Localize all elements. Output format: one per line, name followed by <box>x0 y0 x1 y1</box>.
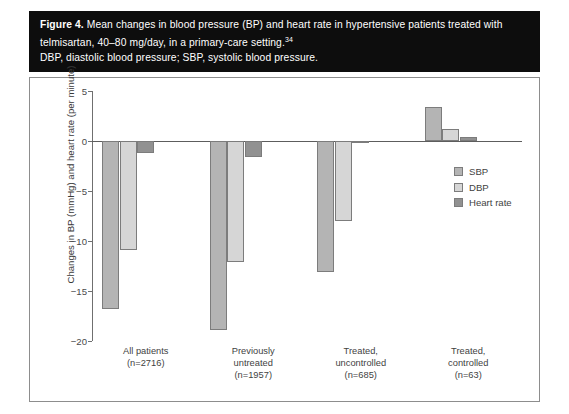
bar-sbp-group-4 <box>425 107 442 141</box>
legend-label-sbp: SBP <box>469 166 488 177</box>
x-axis-label-group-4: Treated,controlled(n=63) <box>415 346 523 381</box>
caption-line-2-text: telmisartan, 40–80 mg/day, in a primary-… <box>40 37 285 48</box>
legend-label-dbp: DBP <box>469 182 489 193</box>
chart-legend: SBP DBP Heart rate <box>454 164 512 211</box>
x-axis-label-line: Treated, <box>415 346 523 358</box>
legend-label-heart-rate: Heart rate <box>469 197 512 208</box>
legend-item-sbp: SBP <box>454 164 512 180</box>
bar-dbp-group-3 <box>335 141 352 221</box>
y-tick-mark <box>88 341 92 342</box>
y-axis-title: Changes in BP (mmHg) and heart rate (per… <box>65 84 76 284</box>
bar-groups <box>92 91 522 341</box>
caption-line-1: Figure 4. Mean changes in blood pressure… <box>40 18 529 33</box>
caption-line-2: telmisartan, 40–80 mg/day, in a primary-… <box>40 33 529 51</box>
bar-sbp-group-2 <box>210 141 227 330</box>
x-axis-label-group-1: All patients(n=2716) <box>92 346 200 370</box>
figure-caption: Figure 4. Mean changes in blood pressure… <box>29 11 540 72</box>
x-axis-label-line: controlled <box>415 358 523 370</box>
x-axis-label-line: uncontrolled <box>307 358 415 370</box>
x-axis-label-line: (n=685) <box>307 370 415 382</box>
figure-label: Figure 4. <box>40 19 84 30</box>
legend-swatch-sbp <box>454 167 463 176</box>
x-axis-label-line: untreated <box>200 358 308 370</box>
legend-item-dbp: DBP <box>454 180 512 196</box>
bar-dbp-group-2 <box>227 141 244 262</box>
figure-container: Figure 4. Mean changes in blood pressure… <box>0 0 569 414</box>
legend-item-heart-rate: Heart rate <box>454 195 512 211</box>
x-axis-label-line: (n=2716) <box>92 358 200 370</box>
bar-heart-rate-group-1 <box>137 141 154 153</box>
bar-dbp-group-4 <box>442 129 459 141</box>
x-axis-label-line: Previously <box>200 346 308 358</box>
x-axis-label-line: All patients <box>92 346 200 358</box>
bar-heart-rate-group-4 <box>460 137 477 141</box>
x-axis-label-group-2: Previouslyuntreated(n=1957) <box>200 346 308 381</box>
legend-swatch-dbp <box>454 183 463 192</box>
x-axis-label-line: (n=1957) <box>200 370 308 382</box>
plot-frame: Changes in BP (mmHg) and heart rate (per… <box>29 77 540 402</box>
x-axis-label-group-3: Treated,uncontrolled(n=685) <box>307 346 415 381</box>
caption-reference-superscript: 34 <box>285 36 293 43</box>
bar-dbp-group-1 <box>120 141 137 250</box>
caption-line-3: DBP, diastolic blood pressure; SBP, syst… <box>40 51 529 66</box>
caption-line-1-text: Mean changes in blood pressure (BP) and … <box>84 19 503 30</box>
bar-sbp-group-1 <box>102 141 119 309</box>
plot-area: 50−5−10−15−20 <box>92 91 522 341</box>
x-axis-label-line: (n=63) <box>415 370 523 382</box>
bar-heart-rate-group-2 <box>245 141 262 157</box>
bar-sbp-group-3 <box>317 141 334 272</box>
bar-heart-rate-group-3 <box>352 141 369 143</box>
legend-swatch-heart-rate <box>454 198 463 207</box>
x-axis-label-line: Treated, <box>307 346 415 358</box>
